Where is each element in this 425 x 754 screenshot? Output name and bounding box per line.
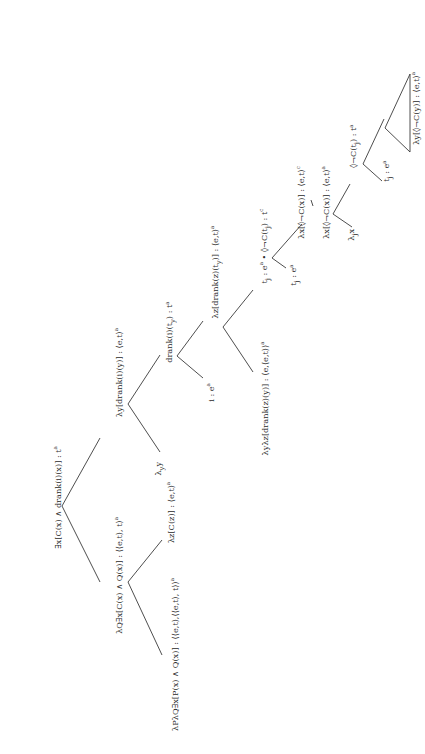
- node-lambda-y: λyy: [154, 461, 165, 475]
- node-v1: λz[drank(z)(ty)] : ⟨e,t⟩a: [210, 226, 222, 319]
- node-verb: λyλz[drank(z)(y)] : ⟨e,⟨e,t⟩⟩a: [260, 341, 269, 455]
- node-s2: ◊¬C(tj) : ta: [349, 124, 361, 168]
- node-i: i : ea: [205, 383, 214, 402]
- tree-edge: [177, 356, 203, 378]
- tree-edge: [311, 200, 313, 206]
- tree-edge: [333, 214, 352, 227]
- tree-edge: [385, 128, 410, 152]
- node-root: ∃x[C(x) ∧ drank(i)(x)] : ta: [52, 446, 61, 549]
- node-noun: λz[C(z)] : ⟨e,t⟩a: [166, 481, 175, 542]
- node-tj-2: tj : ea: [382, 160, 394, 182]
- tree-edge: [62, 438, 100, 506]
- tree-edge: [363, 164, 382, 181]
- tree-edge: [128, 404, 160, 452]
- tree-diagram: [0, 0, 425, 754]
- node-determiner: λPλQ∃x[P(x) ∧ Q(x)] : ⟨⟨e,t⟩,⟨⟨e,t⟩, t⟩⟩…: [169, 578, 178, 731]
- node-relative-c: λx[◊¬C(x)] : ⟨e,t⟩c: [295, 166, 304, 239]
- node-quantifier: λQ∃x[C(x) ∧ Q(x)] : ⟨⟨e,t⟩, t⟩a: [113, 517, 122, 634]
- node-lambda-j: λjx: [347, 228, 358, 240]
- tree-edge: [62, 506, 100, 582]
- tree-edge: [128, 582, 162, 655]
- tree-edge: [128, 540, 162, 582]
- tree-edge: [385, 74, 410, 128]
- node-predicate: λy[◊¬C(y)] : ⟨e,t⟩a: [410, 72, 419, 145]
- node-pair: tj : ea • ◊¬C(tj) : tc: [259, 209, 271, 284]
- tree-edge: [177, 321, 203, 356]
- tree-edge: [363, 119, 384, 164]
- node-vp: λy[drank(i)(y)] : ⟨e,t⟩a: [113, 328, 122, 417]
- node-relative-a: λx[◊¬C(x)] : ⟨e,t⟩a: [320, 166, 329, 239]
- tree-edge: [128, 355, 160, 404]
- tree-edge: [223, 290, 253, 327]
- node-s1: drank(i)(ty) : ta: [164, 301, 176, 362]
- tree-edge: [223, 327, 253, 372]
- tree-edge: [333, 184, 350, 214]
- node-tj-1: tj : ea: [289, 264, 301, 286]
- tree-edge: [272, 258, 286, 268]
